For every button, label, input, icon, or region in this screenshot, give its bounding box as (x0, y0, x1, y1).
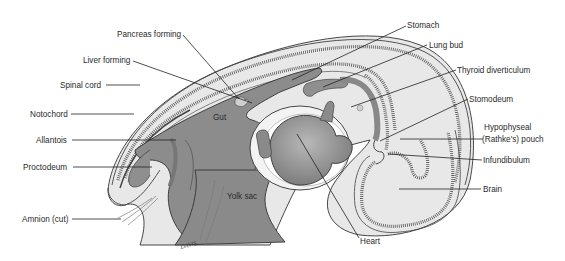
label-proctodeum: Proctodeum (23, 163, 67, 172)
label-stomach: Stomach (407, 21, 440, 30)
label-hypophyseal-line2: (Rathke's) pouch (482, 135, 544, 144)
label-hypophyseal-line1: Hypophyseal (484, 123, 532, 132)
embryo-diagram: Pancreas forming Liver forming Spinal co… (0, 0, 565, 261)
label-lung-bud: Lung bud (429, 41, 464, 50)
label-gut: Gut (213, 113, 227, 122)
thyroid (357, 105, 363, 111)
label-allantois: Allantois (36, 136, 67, 145)
label-brain: Brain (483, 185, 503, 194)
label-stomodeum: Stomodeum (469, 95, 513, 104)
label-pancreas: Pancreas forming (117, 30, 182, 39)
label-thyroid: Thyroid diverticulum (457, 66, 530, 75)
label-liver: Liver forming (83, 56, 131, 65)
label-amnion: Amnion (cut) (22, 215, 69, 224)
label-infundibulum: Infundibulum (483, 156, 530, 165)
label-yolk-sac: Yolk sac (227, 192, 257, 201)
label-spinal-cord: Spinal cord (60, 81, 101, 90)
label-heart: Heart (360, 237, 381, 246)
label-notochord: Notochord (30, 110, 68, 119)
